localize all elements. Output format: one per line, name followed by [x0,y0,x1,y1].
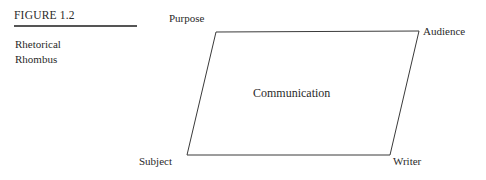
center-label-communication: Communication [253,86,330,100]
corner-label-audience: Audience [423,25,465,38]
corner-label-subject: Subject [139,155,172,168]
corner-label-writer: Writer [393,155,421,168]
rhetorical-rhombus-diagram: Purpose Audience Subject Writer Communic… [0,0,486,180]
corner-label-purpose: Purpose [169,12,204,25]
rhombus-shape-svg [0,0,486,180]
figure-page: FIGURE 1.2 Rhetorical Rhombus Purpose Au… [0,0,486,180]
